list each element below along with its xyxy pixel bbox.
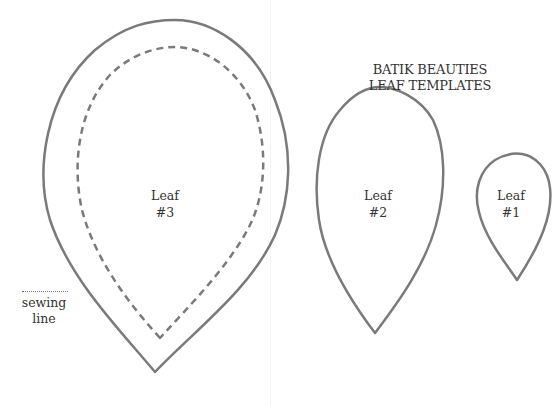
leaf-2-label: Leaf #2	[348, 187, 408, 221]
sewing-line-legend-sample	[22, 291, 68, 292]
sewing-line-legend: sewing line	[14, 295, 74, 327]
leaf-1-label-number: #1	[486, 204, 536, 221]
leaf-1-label: Leaf #1	[486, 187, 536, 221]
page-title: BATIK BEAUTIES LEAF TEMPLATES	[340, 62, 520, 94]
leaf-3-label-number: #3	[135, 204, 195, 221]
title-line-1: BATIK BEAUTIES	[340, 62, 520, 78]
leaf-3-label: Leaf #3	[135, 187, 195, 221]
sewing-line-legend-text-1: sewing	[14, 295, 74, 311]
leaf-templates-sheet: BATIK BEAUTIES LEAF TEMPLATES Leaf #3 Le…	[0, 0, 560, 406]
leaf-shapes	[0, 0, 560, 406]
sewing-line-legend-text-2: line	[14, 311, 74, 327]
title-line-2: LEAF TEMPLATES	[340, 78, 520, 94]
leaf-2-label-name: Leaf	[348, 187, 408, 204]
leaf-1-label-name: Leaf	[486, 187, 536, 204]
leaf-2-label-number: #2	[348, 204, 408, 221]
leaf-3-label-name: Leaf	[135, 187, 195, 204]
